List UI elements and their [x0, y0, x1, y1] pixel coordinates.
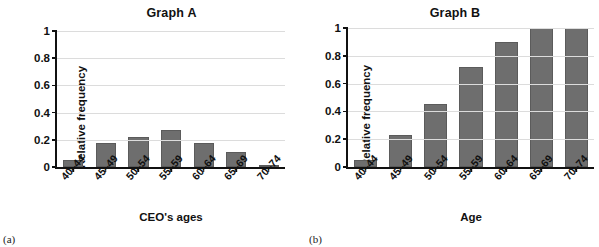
- bar-series-b: 40–4445–4950–5455–5960–6465–6970–74: [348, 28, 594, 167]
- bar-slot: 45–49: [383, 28, 418, 167]
- y-axis-tick-label: 0.2: [325, 133, 341, 145]
- y-axis-tick: [52, 85, 57, 87]
- bar: [530, 28, 553, 167]
- y-axis-tick: [343, 83, 348, 85]
- bar: [459, 67, 482, 167]
- x-axis-title-b: Age: [348, 211, 594, 223]
- y-axis-tick-label: 0: [44, 161, 50, 173]
- y-axis-tick-label: 0.8: [34, 52, 50, 64]
- bar: [495, 42, 518, 167]
- gridline: [57, 140, 285, 141]
- panel-graph-b: Graph B Relative frequency 40–4445–4950–…: [299, 0, 599, 247]
- y-axis-tick: [52, 30, 57, 32]
- bar-slot: 70–74: [559, 28, 594, 167]
- y-axis-tick-label: 1: [335, 22, 341, 34]
- x-axis-tick-label: 70–74: [254, 152, 282, 182]
- gridline: [57, 31, 285, 32]
- y-axis-tick: [343, 111, 348, 113]
- y-axis-tick-label: 0.4: [34, 107, 50, 119]
- plot-area-b: Relative frequency 40–4445–4950–5455–596…: [346, 28, 594, 169]
- gridline: [348, 56, 594, 57]
- x-axis-title-a: CEO's ages: [57, 211, 285, 223]
- panel-graph-a: Graph A Relative frequency 40–4445–4950–…: [0, 0, 299, 247]
- bar-slot: 45–49: [90, 31, 123, 167]
- bar-slot: 40–44: [57, 31, 90, 167]
- bar-slot: 60–64: [187, 31, 220, 167]
- y-axis-tick: [52, 57, 57, 59]
- gridline: [57, 58, 285, 59]
- panel-caption-a: (a): [3, 233, 15, 245]
- bar-slot: 70–74: [252, 31, 285, 167]
- bar-series-a: 40–4445–4950–5455–5960–6465–6970–74: [57, 31, 285, 167]
- chart-title-b: Graph B: [299, 6, 599, 20]
- y-axis-tick: [343, 166, 348, 168]
- y-axis-tick-label: 0.6: [34, 79, 50, 91]
- bar-slot: 40–44: [348, 28, 383, 167]
- y-axis-tick-label: 0.4: [325, 105, 341, 117]
- bar-slot: 60–64: [489, 28, 524, 167]
- bar-slot: 65–69: [220, 31, 253, 167]
- plot-area-a: Relative frequency 40–4445–4950–5455–596…: [55, 31, 285, 169]
- figure-two-panel: Graph A Relative frequency 40–4445–4950–…: [0, 0, 599, 247]
- bar-slot: 55–59: [155, 31, 188, 167]
- y-axis-tick-label: 1: [44, 25, 50, 37]
- y-axis-tick: [343, 138, 348, 140]
- panel-caption-b: (b): [309, 233, 322, 245]
- x-axis-tick-label: 40–44: [351, 152, 379, 182]
- y-axis-tick: [343, 27, 348, 29]
- gridline: [348, 111, 594, 112]
- y-axis-tick: [52, 112, 57, 114]
- gridline: [348, 84, 594, 85]
- gridline: [57, 85, 285, 86]
- chart-title-a: Graph A: [0, 6, 321, 20]
- bar-slot: 55–59: [453, 28, 488, 167]
- y-axis-tick-label: 0.6: [325, 78, 341, 90]
- y-axis-tick-label: 0.8: [325, 50, 341, 62]
- bar-slot: 50–54: [122, 31, 155, 167]
- gridline: [348, 28, 594, 29]
- bar-slot: 65–69: [524, 28, 559, 167]
- y-axis-tick: [343, 55, 348, 57]
- y-axis-tick-label: 0: [335, 161, 341, 173]
- gridline: [348, 139, 594, 140]
- y-axis-tick-label: 0.2: [34, 134, 50, 146]
- gridline: [57, 113, 285, 114]
- y-axis-tick: [52, 139, 57, 141]
- bar-slot: 50–54: [418, 28, 453, 167]
- bar: [565, 28, 588, 167]
- y-axis-tick: [52, 166, 57, 168]
